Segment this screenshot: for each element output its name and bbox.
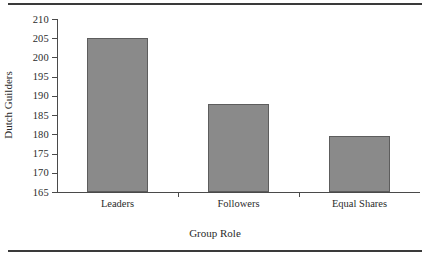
- y-tick-label: 205: [33, 33, 49, 44]
- y-tick: 205: [52, 38, 57, 39]
- y-tick-label: 195: [33, 72, 49, 83]
- x-category-label: Equal Shares: [332, 199, 387, 210]
- bottom-rule: [8, 250, 422, 252]
- y-axis-title: Dutch Guilders: [3, 71, 14, 139]
- y-tick-label: 170: [33, 168, 49, 179]
- y-tick: 175: [52, 154, 57, 155]
- y-tick: 165: [52, 192, 57, 193]
- bar-chart-figure: 165170175180185190195200205210 LeadersFo…: [0, 0, 430, 263]
- x-category-label: Leaders: [101, 199, 134, 210]
- x-tick: [178, 193, 179, 197]
- bar: [87, 38, 148, 192]
- y-tick-label: 210: [33, 14, 49, 25]
- bar: [329, 136, 390, 192]
- y-tick: 195: [52, 77, 57, 78]
- y-tick: 170: [52, 173, 57, 174]
- y-tick-label: 165: [33, 187, 49, 198]
- y-tick-label: 200: [33, 53, 49, 64]
- y-tick: 210: [52, 19, 57, 20]
- bar: [208, 104, 269, 192]
- y-tick-label: 185: [33, 110, 49, 121]
- top-rule: [8, 3, 422, 5]
- x-tick: [299, 193, 300, 197]
- y-tick: 180: [52, 134, 57, 135]
- y-tick: 190: [52, 96, 57, 97]
- y-tick: 185: [52, 115, 57, 116]
- y-tick-label: 190: [33, 91, 49, 102]
- y-axis-line: [57, 19, 58, 192]
- y-tick-label: 180: [33, 130, 49, 141]
- y-tick: 200: [52, 57, 57, 58]
- y-tick-label: 175: [33, 149, 49, 160]
- x-category-label: Followers: [218, 199, 260, 210]
- x-axis-line: [57, 192, 420, 193]
- x-axis-title: Group Role: [0, 228, 430, 239]
